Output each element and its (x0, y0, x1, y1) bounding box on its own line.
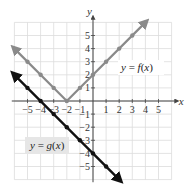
x-tick-label: 1 (104, 104, 109, 115)
x-axis-label: x (178, 95, 184, 107)
data-point (78, 138, 82, 142)
data-point (38, 99, 42, 103)
data-point (25, 86, 29, 90)
data-point (130, 33, 134, 37)
x-tick-label: 3 (130, 104, 135, 115)
f-label: y = f(x) (118, 60, 164, 75)
data-point (25, 60, 29, 64)
data-point (104, 164, 108, 168)
y-tick-label: 4 (85, 43, 90, 54)
data-point (78, 86, 82, 90)
data-point (117, 46, 121, 50)
function-graph: xy −5−4−3−2−112345−5−4−3−2−112345 y = f(… (0, 0, 185, 191)
data-point (65, 125, 69, 129)
x-tick-label: −5 (22, 104, 33, 115)
y-tick-label: −1 (79, 109, 90, 120)
data-point (104, 60, 108, 64)
y-tick-label: 1 (85, 82, 90, 93)
f-label-text: y = f(x) (120, 61, 153, 74)
data-point (52, 86, 56, 90)
g-label: y = g(x) (25, 137, 69, 154)
x-tick-label: −2 (61, 104, 72, 115)
y-tick-label: 3 (85, 56, 90, 67)
data-point (52, 112, 56, 116)
data-point (65, 99, 69, 103)
data-point (91, 73, 95, 77)
x-tick-label: 4 (143, 104, 148, 115)
x-tick-label: 2 (117, 104, 122, 115)
data-point (38, 73, 42, 77)
y-tick-label: −5 (79, 161, 90, 172)
y-tick-label: 5 (85, 30, 90, 41)
y-tick-label: −2 (79, 122, 90, 133)
y-axis-label: y (86, 5, 92, 17)
x-tick-label: 5 (156, 104, 161, 115)
data-point (91, 151, 95, 155)
g-label-text: y = g(x) (29, 139, 65, 152)
axes: xy (12, 5, 184, 182)
